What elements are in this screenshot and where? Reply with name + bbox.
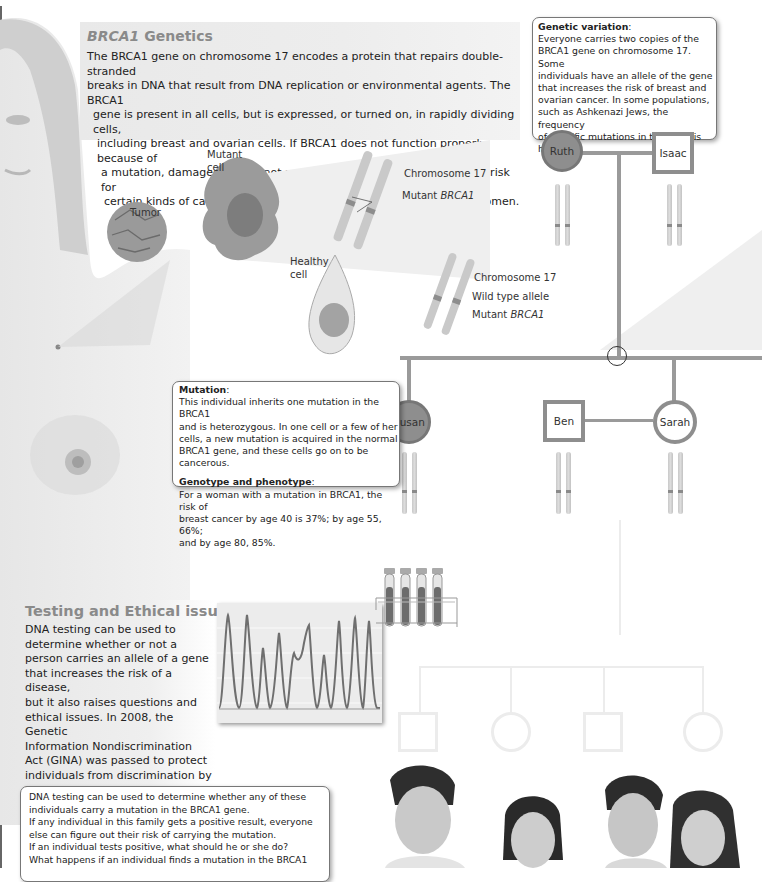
callout-line: and is heterozygous. In one cell or a fe… xyxy=(179,421,399,433)
gen3-drop-1 xyxy=(419,666,421,712)
body-line: determine whether or not a xyxy=(25,638,215,653)
callout-line: Everyone carries two copies of the xyxy=(538,33,716,45)
callout-line: else can figure out their risk of carryi… xyxy=(29,829,329,842)
sarah-chromosome-pair xyxy=(666,452,686,517)
gene-name: BRCA1 xyxy=(87,28,139,44)
gen3-drop-3 xyxy=(603,666,605,712)
callout-line: that increases the risk of breast and xyxy=(538,82,716,94)
title-suffix: Genetics xyxy=(139,28,212,44)
callout-line: For a woman with a mutation in BRCA1, th… xyxy=(179,489,399,513)
gen3-drop-4 xyxy=(702,666,704,712)
body-line: DNA testing can be used to xyxy=(25,623,215,638)
tumor-label: Tumor xyxy=(130,207,161,218)
gen3-sibship-line xyxy=(419,666,703,668)
callout-line: cancerous. xyxy=(179,457,399,469)
person-isaac[interactable]: Isaac xyxy=(652,132,694,174)
callout-line: BRCA1 gene, and these cells go on to be xyxy=(179,445,399,457)
colon: : xyxy=(311,476,314,487)
body-line: but it also raises questions and xyxy=(25,696,215,711)
callout-heading: Genotype and phenotype xyxy=(179,476,311,487)
mutation-callout: Mutation: This individual inherits one m… xyxy=(172,381,400,487)
susan-chromosome-pair xyxy=(400,452,420,517)
ruth-chromosome-pair xyxy=(553,184,573,249)
callout-line: If any individual in this family gets a … xyxy=(29,816,329,829)
person-ruth[interactable]: Ruth xyxy=(541,130,583,172)
label-line: cell xyxy=(290,268,329,281)
callout-line: What happens if an individual finds a mu… xyxy=(29,854,329,867)
colon: : xyxy=(628,21,631,32)
gen3-descent-line xyxy=(619,520,621,635)
gene-name: BRCA1 xyxy=(510,309,544,320)
questions-callout: DNA testing can be used to determine whe… xyxy=(20,786,330,882)
sibship-line xyxy=(400,356,762,360)
mutant-cell-label: Mutant cell xyxy=(207,148,242,174)
label-line: Healthy xyxy=(290,255,329,268)
susan-drop-line xyxy=(407,358,411,403)
callout-line: BRCA1 gene on chromosome 17. Some xyxy=(538,45,716,69)
gene-name: BRCA1 xyxy=(440,190,474,201)
genetic-variation-callout: Genetic variation: Everyone carries two … xyxy=(532,17,717,140)
gen3-drop-2 xyxy=(510,666,512,712)
descent-line xyxy=(617,153,621,358)
isaac-chromosome-pair xyxy=(665,184,685,249)
callout-line: DNA testing can be used to determine whe… xyxy=(29,791,329,804)
chromosome-17-label-bottom: Chromosome 17 xyxy=(474,272,556,283)
gen3-female-2 xyxy=(683,712,723,752)
label-line: cell xyxy=(207,161,242,174)
callout-line: individuals carry a mutation in the BRCA… xyxy=(29,804,329,817)
body-line: The BRCA1 gene on chromosome 17 encodes … xyxy=(87,50,527,79)
callout-line: This individual inherits one mutation in… xyxy=(179,396,399,420)
gen3-male-1 xyxy=(398,712,438,752)
body-line: that increases the risk of a disease, xyxy=(25,667,215,696)
label-line: Mutant xyxy=(207,148,242,161)
person-sarah[interactable]: Sarah xyxy=(653,400,697,444)
body-line: Information Nondiscrimination xyxy=(25,740,215,755)
dna-sequencing-chromatogram xyxy=(217,603,382,723)
brca1-genetics-title: BRCA1 Genetics xyxy=(87,28,213,44)
callout-line: individuals have an allele of the gene xyxy=(538,70,716,82)
gen3-male-2 xyxy=(583,712,623,752)
label-prefix: Mutant xyxy=(472,309,510,320)
body-line: ethical issues. In 2008, the Genetic xyxy=(25,711,215,740)
healthy-cell-label: Healthy cell xyxy=(290,255,329,281)
chromosome-17-label-top: Chromosome 17 xyxy=(404,168,486,179)
sarah-drop-line xyxy=(672,358,676,406)
gen3-female-1 xyxy=(491,712,531,752)
callout-heading: Genetic variation xyxy=(538,21,628,32)
callout-line: breast cancer by age 40 is 37%; by age 5… xyxy=(179,513,399,537)
test-tube-rack-icon xyxy=(372,565,462,633)
callout-line: ovarian cancer. In some populations, xyxy=(538,94,716,106)
mutant-brca1-label-top: Mutant BRCA1 xyxy=(402,190,474,201)
couple-line-ben-sarah xyxy=(583,419,653,422)
callout-line: and by age 80, 85%. xyxy=(179,537,399,549)
person-ben[interactable]: Ben xyxy=(543,400,585,442)
four-young-adults-photo xyxy=(355,760,755,868)
pedigree-highlight-wedge xyxy=(600,230,762,360)
label-prefix: Mutant xyxy=(402,190,440,201)
focus-circle-marker xyxy=(607,346,627,366)
testing-ethics-title: Testing and Ethical issues xyxy=(25,603,236,619)
wild-type-allele-label: Wild type allele xyxy=(472,291,549,302)
body-line: Act (GINA) was passed to protect xyxy=(25,754,215,769)
ben-chromosome-pair xyxy=(554,452,574,517)
callout-line: If an individual tests positive, what sh… xyxy=(29,841,329,854)
callout-heading: Mutation xyxy=(179,384,226,395)
body-line: person carries an allele of a gene xyxy=(25,652,215,667)
colon: : xyxy=(226,384,229,395)
page-header-strip xyxy=(0,0,762,6)
callout-line: cells, a new mutation is acquired in the… xyxy=(179,433,399,445)
callout-line: such as Ashkenazi Jews, the frequency xyxy=(538,106,716,130)
body-line: gene is present in all cells, but is exp… xyxy=(87,108,527,137)
mutant-brca1-label-bottom: Mutant BRCA1 xyxy=(472,309,544,320)
body-line: breaks in DNA that result from DNA repli… xyxy=(87,79,527,108)
body-line: individuals from discrimination by xyxy=(25,769,215,784)
